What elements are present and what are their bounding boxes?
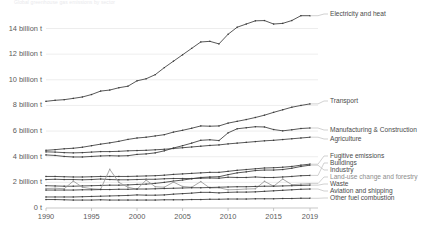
legend-item-aviation-and-shipping[interactable]: Aviation and shipping — [330, 187, 393, 194]
data-point-marker — [182, 54, 183, 55]
data-point-marker — [91, 145, 92, 146]
data-point-marker — [173, 194, 174, 195]
data-point-marker — [237, 170, 238, 171]
legend-item-industry[interactable]: Industry — [330, 166, 353, 173]
data-point-marker — [264, 20, 265, 21]
data-point-marker — [282, 176, 283, 177]
data-point-marker — [45, 196, 46, 197]
data-point-marker — [100, 196, 101, 197]
data-point-marker — [227, 177, 228, 178]
data-point-marker — [255, 176, 256, 177]
data-point-marker — [209, 41, 210, 42]
legend-item-manufacturing-construction[interactable]: Manufacturing & Construction — [330, 126, 417, 133]
data-point-marker — [64, 179, 65, 180]
data-point-marker — [54, 100, 55, 101]
legend-item-other-fuel-combustion[interactable]: Other fuel combustion — [330, 194, 395, 201]
data-point-marker — [300, 128, 301, 129]
data-point-marker — [127, 199, 128, 200]
data-point-marker — [127, 139, 128, 140]
data-point-marker — [246, 177, 247, 178]
data-point-marker — [73, 189, 74, 190]
data-point-marker — [255, 126, 256, 127]
data-point-marker — [273, 129, 274, 130]
y-axis-tick-label: 12 billion t — [0, 50, 42, 58]
data-point-marker — [246, 191, 247, 192]
legend-item-fugitive-emissions[interactable]: Fugitive emissions — [330, 152, 384, 159]
data-point-marker — [82, 96, 83, 97]
chart-container: Global greenhouse gas emissions by secto… — [0, 0, 429, 232]
data-point-marker — [155, 195, 156, 196]
data-point-marker — [273, 167, 274, 168]
data-point-marker — [209, 126, 210, 127]
data-point-marker — [237, 177, 238, 178]
data-point-marker — [109, 151, 110, 152]
data-point-marker — [300, 105, 301, 106]
data-point-marker — [291, 198, 292, 199]
data-point-marker — [164, 67, 165, 68]
data-point-marker — [136, 137, 137, 138]
data-point-marker — [191, 173, 192, 174]
data-point-marker — [218, 144, 219, 145]
data-point-marker — [173, 131, 174, 132]
data-point-marker — [118, 141, 119, 142]
data-point-marker — [155, 183, 156, 184]
data-point-marker — [127, 195, 128, 196]
data-point-marker — [255, 198, 256, 199]
data-point-marker — [291, 189, 292, 190]
series-line — [46, 164, 310, 177]
x-axis-tick-label: 1995 — [76, 213, 108, 221]
data-point-marker — [64, 156, 65, 157]
data-point-marker — [218, 43, 219, 44]
data-point-marker — [54, 188, 55, 189]
data-point-marker — [182, 187, 183, 188]
data-point-marker — [237, 142, 238, 143]
data-point-marker — [246, 127, 247, 128]
data-point-marker — [164, 182, 165, 183]
data-point-marker — [164, 187, 165, 188]
data-point-marker — [45, 151, 46, 152]
data-point-marker — [237, 191, 238, 192]
data-point-marker — [54, 179, 55, 180]
data-point-marker — [64, 99, 65, 100]
data-point-marker — [164, 188, 165, 189]
x-axis-tick-label: 2005 — [167, 213, 199, 221]
data-point-marker — [155, 179, 156, 180]
legend-item-transport[interactable]: Transport — [330, 97, 358, 104]
data-point-marker — [218, 199, 219, 200]
data-point-marker — [118, 189, 119, 190]
data-point-marker — [64, 199, 65, 200]
data-point-marker — [282, 109, 283, 110]
data-point-marker — [164, 149, 165, 150]
legend-item-buildings[interactable]: Buildings — [330, 159, 357, 166]
legend-item-agriculture[interactable]: Agriculture — [330, 135, 362, 142]
data-point-marker — [227, 171, 228, 172]
data-point-marker — [45, 154, 46, 155]
data-point-marker — [182, 145, 183, 146]
series-line — [46, 175, 310, 179]
x-axis-tick-label: 2010 — [212, 213, 244, 221]
data-point-marker — [155, 74, 156, 75]
data-point-marker — [300, 198, 301, 199]
data-point-marker — [200, 146, 201, 147]
data-point-marker — [255, 20, 256, 21]
data-point-marker — [218, 187, 219, 188]
legend-item-electricity-and-heat[interactable]: Electricity and heat — [330, 10, 386, 17]
data-point-marker — [264, 126, 265, 127]
data-point-marker — [155, 199, 156, 200]
data-point-marker — [145, 199, 146, 200]
data-point-marker — [136, 184, 137, 185]
data-point-marker — [118, 185, 119, 186]
data-point-marker — [127, 184, 128, 185]
data-point-marker — [127, 176, 128, 177]
data-point-marker — [64, 186, 65, 187]
legend-leader-line — [310, 165, 328, 170]
data-point-marker — [64, 188, 65, 189]
data-point-marker — [73, 156, 74, 157]
data-point-marker — [291, 166, 292, 167]
legend-item-waste[interactable]: Waste — [330, 180, 348, 187]
data-point-marker — [82, 176, 83, 177]
data-point-marker — [191, 178, 192, 179]
data-point-marker — [218, 178, 219, 179]
data-point-marker — [155, 152, 156, 153]
legend-item-land-use-change-and-forestry[interactable]: Land-use change and forestry — [330, 173, 418, 180]
